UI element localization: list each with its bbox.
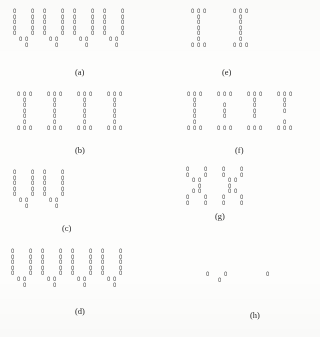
zero-glyph: 0 [43,31,46,37]
zero-glyph: 0 [187,92,190,98]
zero-glyph: 0 [218,278,221,284]
zero-glyph: 0 [89,271,92,277]
zero-glyph: 0 [107,92,110,98]
zero-glyph: 0 [23,126,26,132]
zero-glyph: 0 [83,126,86,132]
zero-glyph: 0 [23,283,26,289]
zero-glyph: 0 [229,126,232,132]
zero-glyph: 0 [43,192,46,198]
zero-glyph: 0 [247,92,250,98]
zero-glyph: 0 [283,109,286,115]
zero-glyph: 0 [71,271,74,277]
zero-glyph: 0 [83,283,86,289]
zero-glyph: 0 [253,126,256,132]
zero-glyph: 0 [204,173,207,179]
zero-glyph: 0 [89,126,92,132]
zero-glyph: 0 [289,92,292,98]
zero-glyph: 0 [115,43,118,49]
zero-glyph: 0 [119,271,122,277]
zero-glyph: 0 [85,43,88,49]
zero-glyph: 0 [253,114,256,120]
zero-glyph: 0 [29,92,32,98]
panel-label-h: (h) [250,311,260,320]
zero-glyph: 0 [223,126,226,132]
zero-glyph: 0 [223,114,226,120]
zero-glyph: 0 [203,43,206,49]
zero-glyph: 0 [73,31,76,37]
zero-glyph: 0 [17,126,20,132]
zero-glyph: 0 [29,126,32,132]
zero-glyph: 0 [206,272,209,278]
zero-glyph: 0 [89,92,92,98]
zero-glyph: 0 [245,43,248,49]
zero-glyph: 0 [53,283,56,289]
zero-glyph: 0 [49,198,52,204]
zero-glyph: 0 [222,201,225,207]
zero-glyph: 0 [203,9,206,15]
panel-label-a: (a) [75,68,84,77]
zero-glyph: 0 [113,283,116,289]
zero-glyph: 0 [61,31,64,37]
zero-glyph: 0 [77,277,80,283]
zero-glyph: 0 [59,271,62,277]
zero-glyph: 0 [191,43,194,49]
zero-glyph: 0 [19,37,22,43]
zero-glyph: 0 [199,92,202,98]
zero-glyph: 0 [119,92,122,98]
zero-glyph: 0 [47,92,50,98]
zero-glyph: 0 [289,126,292,132]
zero-glyph: 0 [61,192,64,198]
zero-glyph: 0 [29,271,32,277]
zero-glyph: 0 [277,126,280,132]
zero-glyph: 0 [47,277,50,283]
zero-glyph: 0 [101,271,104,277]
zero-glyph: 0 [266,272,269,278]
zero-glyph: 0 [25,204,28,210]
zero-glyph: 0 [11,271,14,277]
zero-glyph: 0 [31,192,34,198]
zero-glyph: 0 [247,126,250,132]
zero-glyph: 0 [228,189,231,195]
zero-glyph: 0 [119,126,122,132]
zero-glyph: 0 [283,126,286,132]
zero-glyph: 0 [245,9,248,15]
zero-glyph: 0 [192,178,195,184]
panel-label-e: (e) [222,68,231,77]
zero-glyph: 0 [217,126,220,132]
panel-label-d: (d) [75,307,85,316]
panel-label-b: (b) [75,146,85,155]
zero-glyph: 0 [13,192,16,198]
zero-glyph: 0 [55,43,58,49]
zero-glyph: 0 [229,92,232,98]
zero-glyph: 0 [193,126,196,132]
zero-glyph: 0 [259,92,262,98]
zero-glyph: 0 [31,31,34,37]
zero-glyph: 0 [239,43,242,49]
zero-glyph: 0 [240,201,243,207]
zero-glyph: 0 [25,43,28,49]
zero-glyph: 0 [186,173,189,179]
zero-glyph: 0 [204,201,207,207]
zero-glyph: 0 [109,37,112,43]
zero-glyph: 0 [59,126,62,132]
panel-label-f: (f) [235,146,244,155]
zero-glyph: 0 [113,126,116,132]
zero-glyph: 0 [13,31,16,37]
panel-label-c: (c) [62,224,71,233]
zero-glyph: 0 [191,9,194,15]
zero-glyph: 0 [259,126,262,132]
zero-glyph: 0 [107,126,110,132]
zero-glyph: 0 [79,37,82,43]
zero-glyph: 0 [59,92,62,98]
zero-glyph: 0 [19,198,22,204]
zero-glyph: 0 [199,126,202,132]
zero-glyph: 0 [91,31,94,37]
zero-glyph: 0 [77,126,80,132]
zero-glyph: 0 [17,277,20,283]
zero-glyph: 0 [41,271,44,277]
zero-glyph: 0 [234,178,237,184]
zero-glyph: 0 [198,189,201,195]
zero-glyph: 0 [187,126,190,132]
zero-glyph: 0 [47,126,50,132]
zero-glyph: 0 [121,31,124,37]
